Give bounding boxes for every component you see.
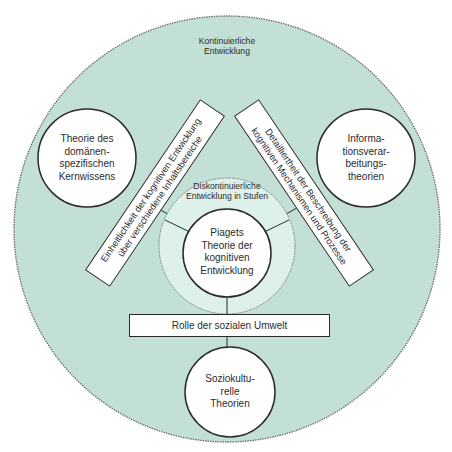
inner-region-label: Diskontinuierliche Entwicklung in Stufen [172,181,282,201]
left-line-4: Kernwissens [42,171,132,184]
left-theory-label: Theorie des domänen- spezifischen Kernwi… [42,133,132,183]
left-line-3: spezifischen [42,158,132,171]
center-line-2: Theorie der [182,240,272,253]
bottom-line-3: Theorien [185,398,275,411]
center-line-3: kognitiven [182,252,272,265]
inner-label-line2: Entwicklung in Stufen [172,191,282,201]
center-line-1: Piagets [182,227,272,240]
bottom-theory-label: Soziokultu- relle Theorien [185,373,275,411]
right-line-3: beitungs- [321,158,411,171]
bottom-line-2: relle [185,386,275,399]
right-line-4: theorien [321,171,411,184]
right-line-1: Informa- [321,133,411,146]
center-line-4: Entwicklung [182,265,272,278]
outer-region-label: Kontinuierliche Entwicklung [177,36,277,56]
outer-label-line2: Entwicklung [177,46,277,56]
center-theory-label: Piagets Theorie der kognitiven Entwicklu… [182,227,272,277]
bottom-bar-line1: Rolle der sozialen Umwelt [172,320,288,332]
inner-label-line1: Diskontinuierliche [172,181,282,191]
left-line-1: Theorie des [42,133,132,146]
bottom-line-1: Soziokultu- [185,373,275,386]
left-line-2: domänen- [42,146,132,159]
dimension-bar-bottom: Rolle der sozialen Umwelt [129,314,330,337]
right-theory-label: Informa- tionsverar- beitungs- theorien [321,133,411,183]
right-line-2: tionsverar- [321,146,411,159]
outer-label-line1: Kontinuierliche [177,36,277,46]
